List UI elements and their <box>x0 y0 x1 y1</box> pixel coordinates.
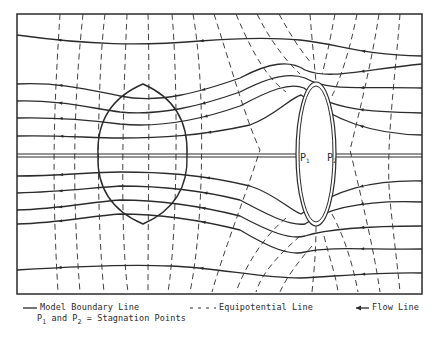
arrow-left-line-icon <box>355 305 369 311</box>
flow-arrow-icon <box>199 39 203 43</box>
flow-line <box>17 172 422 214</box>
solid-line-icon <box>23 306 37 310</box>
flow-arrow-icon <box>59 135 63 138</box>
equipotential-line <box>389 14 400 292</box>
equipotential-line <box>54 14 60 292</box>
equipotential-line <box>148 14 149 292</box>
equipotential-line <box>75 14 83 292</box>
and-text: and <box>46 313 72 323</box>
legend-model-boundary: Model Boundary Line <box>23 302 139 312</box>
flow-arrow-icon <box>361 273 365 276</box>
equipotential-line <box>123 14 128 292</box>
flow-arrow-icon <box>57 266 61 269</box>
centerline-boundary <box>17 154 422 157</box>
flow-arrow-icon <box>58 101 62 105</box>
equipotential-line <box>256 14 300 292</box>
flow-line <box>17 75 422 113</box>
flow-arrow-icon <box>58 205 62 209</box>
legend-flow-line: Flow Line <box>355 302 419 312</box>
flow-line <box>17 35 422 56</box>
flow-line <box>17 265 422 278</box>
equipotential-lines <box>54 14 400 292</box>
flow-arrow-icon <box>57 38 61 42</box>
legend-flow-label: Flow Line <box>372 302 419 312</box>
legend-stagnation-points: P1 and P2 = Stagnation Points <box>37 313 186 323</box>
dashed-line-icon <box>190 306 216 310</box>
equipotential-line <box>168 14 176 292</box>
flow-line <box>17 95 422 138</box>
stagnation-label: = Stagnation Points <box>82 313 186 323</box>
equipotential-line <box>212 14 260 292</box>
legend-equipotential: Equipotential Line <box>190 302 313 312</box>
equipotential-line <box>190 14 202 292</box>
flow-arrow-icon <box>199 266 203 270</box>
legend-boundary-label: Model Boundary Line <box>40 302 139 312</box>
flow-arrow-icon <box>58 84 62 88</box>
flow-arrow-icon <box>360 226 364 229</box>
flow-arrow-icon <box>59 117 63 120</box>
equipotential-line <box>350 14 380 292</box>
flow-arrow-icon <box>360 247 364 250</box>
flow-net-diagram: P1P2 <box>0 0 442 300</box>
flow-arrow-icon <box>360 86 364 89</box>
flow-line <box>17 214 422 253</box>
equipotential-line <box>236 14 286 292</box>
flow-arrow-icon <box>58 189 62 192</box>
equipotential-line <box>98 14 105 292</box>
flow-arrow-icon <box>58 219 62 223</box>
flow-arrow-icon <box>59 173 63 176</box>
legend-equipotential-label: Equipotential Line <box>219 302 313 312</box>
